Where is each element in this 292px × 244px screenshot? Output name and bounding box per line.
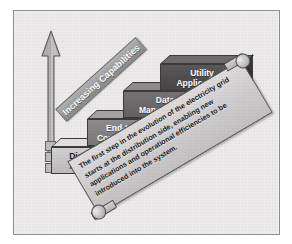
diagram-canvas: Increasing Capabilities Distribution Aut…	[0, 0, 292, 244]
increasing-capabilities-arrow	[40, 30, 62, 155]
diagram-frame: Increasing Capabilities Distribution Aut…	[13, 10, 280, 235]
